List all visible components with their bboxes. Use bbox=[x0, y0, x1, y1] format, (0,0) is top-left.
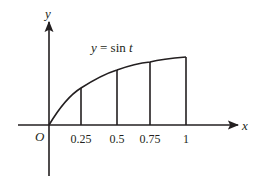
tick-label-0.25: 0.25 bbox=[71, 132, 92, 146]
curve-label-eq: = sin bbox=[97, 40, 129, 55]
curve-label-var: t bbox=[129, 40, 133, 55]
tick-label-0.75: 0.75 bbox=[140, 132, 161, 146]
sine-diagram: y x O y = sin t 0.25 0.5 0.75 1 bbox=[0, 0, 260, 187]
tick-label-0.5: 0.5 bbox=[110, 132, 125, 146]
y-axis-label: y bbox=[43, 6, 51, 21]
curve-label: y = sin t bbox=[89, 40, 133, 55]
tick-label-1: 1 bbox=[183, 132, 189, 146]
x-axis-label: x bbox=[241, 118, 248, 133]
origin-label: O bbox=[35, 129, 45, 144]
